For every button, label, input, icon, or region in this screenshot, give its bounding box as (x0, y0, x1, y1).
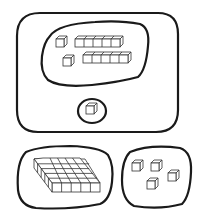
loose-units-group (122, 147, 191, 208)
outer-group-loop (17, 13, 178, 132)
unit-cube (56, 36, 67, 47)
unit-cube (86, 103, 97, 114)
rod (75, 36, 123, 47)
unit-cube (151, 160, 162, 171)
unit-cube (63, 55, 74, 66)
unit-cube (132, 160, 143, 171)
base-ten-blocks-diagram: Base-ten blocks grouped with hand-drawn … (0, 0, 197, 215)
unit-cube (147, 178, 158, 189)
flat-group (18, 146, 113, 209)
unit-cube (168, 170, 179, 181)
inner-rods-group (42, 21, 149, 85)
single-unit-group (78, 99, 106, 123)
rod (83, 52, 131, 63)
flat (34, 158, 100, 192)
